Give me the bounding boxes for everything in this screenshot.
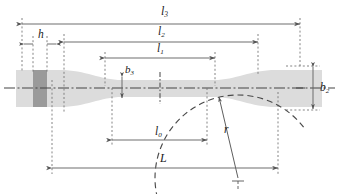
label-b3: b3 <box>125 64 134 77</box>
label-r: r <box>224 124 228 136</box>
radius-leader-line <box>219 97 244 190</box>
label-h: h <box>38 29 44 41</box>
label-l2: l2 <box>158 26 165 39</box>
label-l0: l0 <box>155 126 162 139</box>
label-L: L <box>160 152 167 164</box>
label-l3: l3 <box>161 5 168 19</box>
figure-canvas: l3 l2 l1 h b3 b2 l0 L r <box>0 0 339 196</box>
label-b2: b2 <box>320 82 329 95</box>
label-l1: l1 <box>157 43 164 56</box>
diagram-vector-layer <box>0 0 339 196</box>
